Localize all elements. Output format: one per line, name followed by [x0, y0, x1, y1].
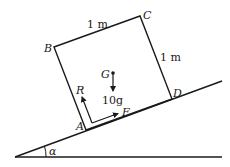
friction-force-arrow [92, 114, 118, 124]
vertex-label-a: A [75, 120, 84, 133]
vertex-label-c: C [143, 9, 152, 22]
weight-label: 10g [102, 94, 123, 107]
angle-arc [45, 146, 47, 157]
inclined-plane-diagram: A B C D G 1 m 1 m R F 10g α [0, 0, 230, 167]
friction-force-label: F [121, 106, 130, 119]
side-label-cd: 1 m [160, 51, 181, 64]
vertex-label-d: D [172, 87, 182, 100]
side-label-bc: 1 m [87, 18, 108, 31]
normal-force-label: R [75, 84, 84, 97]
angle-label: α [49, 145, 57, 158]
centre-of-mass-label: G [101, 68, 110, 81]
vertex-label-b: B [43, 42, 52, 55]
